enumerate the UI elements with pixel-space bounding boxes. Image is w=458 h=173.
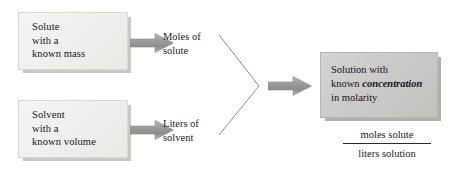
molarity-flow-diagram: Solute with a known mass Solvent with a … (0, 0, 458, 173)
solvent-input-box: Solvent with a known volume (18, 100, 128, 158)
solution-line-1: Solution with (331, 63, 437, 77)
solvent-line-2: with a (32, 122, 127, 136)
fraction-denominator: liters solution (341, 146, 433, 161)
liters-label-line-2: solvent (163, 131, 199, 145)
moles-label-line-2: solute (163, 44, 201, 58)
converging-connector-lines (210, 26, 268, 144)
liters-of-solvent-label: Liters of solvent (163, 117, 199, 145)
solution-concentration-emphasis: concentration (362, 78, 422, 89)
solution-line-3: in molarity (331, 91, 437, 105)
solute-line-1: Solute (32, 20, 127, 34)
solution-output-box: Solution with known concentration in mol… (320, 52, 438, 118)
arrow-right-icon (268, 76, 312, 96)
solution-line-2-prefix: known (331, 78, 362, 89)
liters-label-line-1: Liters of (163, 117, 199, 131)
solvent-line-3: known volume (32, 135, 127, 149)
solute-input-box: Solute with a known mass (18, 12, 128, 70)
fraction-bar (343, 143, 431, 144)
solute-line-3: known mass (32, 47, 127, 61)
solution-line-2: known concentration (331, 77, 437, 91)
moles-label-line-1: Moles of (163, 30, 201, 44)
molarity-fraction: moles solute liters solution (341, 127, 433, 161)
moles-of-solute-label: Moles of solute (163, 30, 201, 58)
solute-line-2: with a (32, 34, 127, 48)
fraction-numerator: moles solute (341, 127, 433, 142)
solvent-line-1: Solvent (32, 108, 127, 122)
